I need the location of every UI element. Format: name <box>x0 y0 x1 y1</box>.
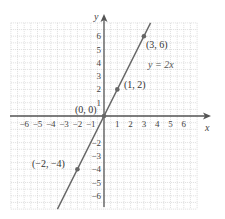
y-axis-label: y <box>93 11 99 22</box>
data-point <box>142 34 147 39</box>
x-tick-label: 2 <box>128 119 133 129</box>
point-label-3-6: (3, 6) <box>146 39 168 51</box>
x-tick-label: −5 <box>33 119 43 129</box>
y-tick-label: −6 <box>91 191 101 201</box>
y-tick-label: 2 <box>97 84 102 94</box>
y-tick-label: 1 <box>97 98 102 108</box>
point-label-1-2: (1, 2) <box>124 79 146 91</box>
data-point <box>102 114 107 119</box>
x-tick-label: −1 <box>86 119 96 129</box>
y-tick-label: 3 <box>97 71 102 81</box>
y-tick-label: 6 <box>97 31 102 41</box>
x-tick-label: −4 <box>46 119 56 129</box>
y-tick-label: −5 <box>91 178 101 188</box>
x-tick-label: −3 <box>59 119 69 129</box>
y-tick-label: 4 <box>97 58 102 68</box>
x-tick-label: 1 <box>115 119 120 129</box>
x-tick-label: 6 <box>182 119 187 129</box>
data-point <box>115 87 120 92</box>
x-tick-label: 3 <box>142 119 147 129</box>
y-tick-label: 5 <box>97 45 102 55</box>
point-label-neg2-neg4: (−2, −4) <box>32 158 65 170</box>
data-point <box>75 167 80 172</box>
x-tick-label: 5 <box>168 119 173 129</box>
x-tick-label: 4 <box>155 119 160 129</box>
graph-y-equals-2x: x y −6−5−4−3−2−1123456−6−5−4−3−2123456 (… <box>0 0 225 219</box>
x-tick-label: −2 <box>73 119 83 129</box>
x-axis-label: x <box>204 122 210 133</box>
y-tick-label: −3 <box>91 151 101 161</box>
equation-label: y = 2x <box>147 59 174 70</box>
y-tick-label: −4 <box>91 164 101 174</box>
point-label-0-0: (0, 0) <box>75 104 97 116</box>
x-tick-label: −6 <box>19 119 29 129</box>
